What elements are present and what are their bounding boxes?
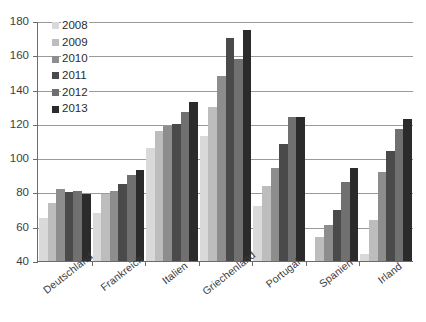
x-axis-category-label: Irland — [376, 260, 405, 286]
legend-swatch-icon — [52, 22, 59, 29]
bar — [234, 59, 243, 261]
legend-item-2009: 2009 — [52, 37, 89, 49]
bar-chart: 406080100120140160180 200820092010201120… — [0, 0, 426, 322]
bar — [208, 107, 217, 261]
legend-swatch-icon — [52, 56, 59, 63]
y-axis-tick-label: 40 — [0, 256, 29, 268]
y-axis-tick-label: 120 — [0, 119, 29, 131]
bar — [288, 117, 297, 261]
bar — [146, 148, 155, 261]
bar — [315, 237, 324, 261]
bar-group — [145, 22, 199, 261]
bar — [341, 182, 350, 261]
legend-swatch-icon — [52, 89, 59, 96]
x-axis-category-label: Italien — [160, 259, 190, 286]
bar — [118, 184, 127, 261]
bar — [189, 102, 198, 261]
bar — [226, 38, 235, 261]
bar — [243, 30, 252, 261]
legend-item-label: 2012 — [61, 87, 89, 99]
y-axis-tick-label: 100 — [0, 153, 29, 165]
legend-item-label: 2011 — [61, 70, 88, 82]
x-axis-category: Deutschland — [37, 262, 91, 322]
legend-swatch-icon — [52, 39, 59, 46]
bar — [200, 136, 209, 261]
x-axis-category: Spanien — [306, 262, 360, 322]
bar — [39, 218, 48, 261]
x-axis-category: Italien — [144, 262, 198, 322]
legend-item-label: 2009 — [61, 37, 89, 49]
bar — [386, 151, 395, 261]
legend-item-2010: 2010 — [52, 53, 89, 65]
bar — [56, 189, 65, 261]
bar — [333, 210, 342, 261]
bar — [369, 220, 378, 261]
bar — [73, 191, 82, 261]
legend-item-2012: 2012 — [52, 87, 89, 99]
legend-item-2008: 2008 — [52, 20, 89, 32]
x-axis-labels: DeutschlandFrankreichItalienGriechenland… — [37, 262, 413, 322]
bar — [155, 131, 164, 261]
bar — [136, 170, 145, 261]
bar — [48, 203, 57, 261]
y-axis-tick-label: 80 — [0, 187, 29, 199]
bar — [324, 225, 333, 261]
bar — [181, 112, 190, 261]
bar — [93, 213, 102, 261]
y-axis-tick-label: 140 — [0, 85, 29, 97]
plot-area — [37, 22, 413, 262]
x-axis-category: Portugal — [252, 262, 306, 322]
legend-item-label: 2013 — [61, 103, 89, 115]
bar-group — [92, 22, 146, 261]
legend-swatch-icon — [52, 106, 59, 113]
bar — [127, 175, 136, 261]
bar — [350, 168, 359, 261]
x-axis-category: Irland — [359, 262, 413, 322]
bar — [217, 76, 226, 261]
legend-item-label: 2008 — [61, 20, 89, 32]
bar — [395, 129, 404, 261]
bar — [403, 119, 412, 261]
bar — [378, 172, 387, 261]
bar-group — [359, 22, 413, 261]
bar — [110, 191, 119, 261]
bar-group — [199, 22, 253, 261]
chart-legend: 200820092010201120122013 — [52, 20, 89, 115]
bar — [172, 124, 181, 261]
bar — [65, 192, 74, 261]
legend-swatch-icon — [52, 72, 59, 79]
y-axis-tick-label: 160 — [0, 50, 29, 62]
y-axis-tick-label: 180 — [0, 16, 29, 28]
bar — [271, 168, 280, 261]
bar-group — [306, 22, 360, 261]
bar — [360, 254, 369, 261]
x-axis-category: Frankreich — [91, 262, 145, 322]
bar — [163, 126, 172, 261]
legend-item-label: 2010 — [61, 53, 89, 65]
legend-item-2011: 2011 — [52, 70, 89, 82]
bar-group — [252, 22, 306, 261]
x-axis-category: Griechenland — [198, 262, 252, 322]
bar — [279, 144, 288, 261]
legend-item-2013: 2013 — [52, 103, 89, 115]
bar — [262, 186, 271, 261]
bar-groups — [38, 22, 413, 261]
bar — [296, 117, 305, 261]
y-axis-tick-label: 60 — [0, 222, 29, 234]
bar — [101, 194, 110, 261]
